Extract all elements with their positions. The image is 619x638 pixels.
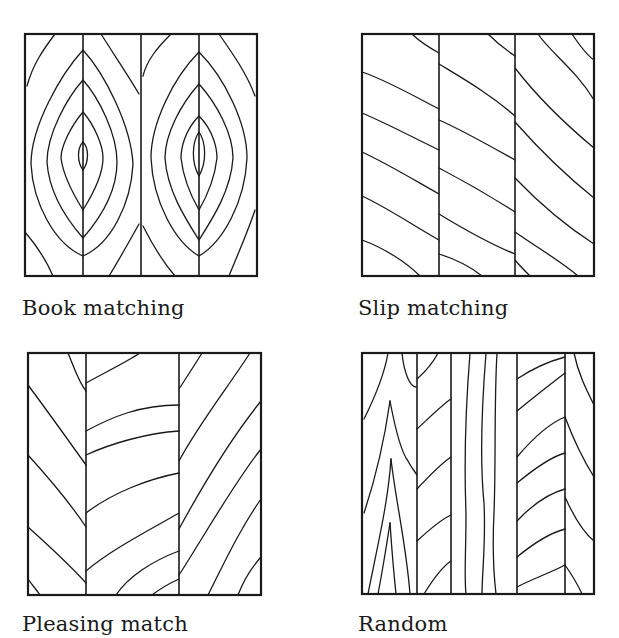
slip-matching-diagram — [362, 34, 594, 276]
pleasing-match-illustration — [28, 353, 261, 595]
book-matching-diagram — [25, 34, 257, 276]
random-match-illustration — [362, 353, 594, 594]
caption-random: Random — [358, 612, 448, 636]
slip-matching-illustration — [362, 34, 594, 276]
caption-book-matching: Book matching — [22, 296, 185, 320]
random-match-diagram — [362, 353, 594, 594]
book-matching-illustration — [25, 34, 257, 276]
caption-slip-matching: Slip matching — [358, 296, 508, 320]
pleasing-match-diagram — [28, 353, 261, 595]
caption-pleasing-match: Pleasing match — [22, 612, 188, 636]
